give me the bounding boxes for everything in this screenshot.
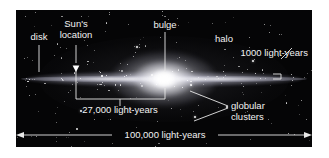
star bbox=[162, 15, 163, 16]
disk-knot bbox=[265, 78, 266, 79]
star bbox=[109, 14, 110, 15]
star bbox=[32, 79, 33, 80]
disk-knot bbox=[216, 76, 218, 78]
star bbox=[25, 16, 26, 17]
disk-knot bbox=[124, 76, 125, 77]
star bbox=[56, 122, 57, 123]
star bbox=[207, 76, 209, 78]
star bbox=[139, 47, 140, 48]
star bbox=[264, 24, 265, 25]
star bbox=[61, 57, 62, 58]
star bbox=[110, 119, 111, 120]
star bbox=[269, 32, 270, 33]
label-halo: halo bbox=[206, 34, 242, 45]
star bbox=[76, 128, 78, 130]
star bbox=[64, 101, 65, 102]
disk-knot bbox=[156, 84, 157, 85]
star bbox=[84, 141, 85, 142]
star bbox=[261, 92, 262, 93]
star bbox=[288, 133, 290, 135]
star bbox=[60, 47, 61, 48]
star bbox=[291, 85, 292, 86]
star bbox=[198, 105, 199, 106]
star bbox=[94, 50, 95, 51]
disk-knot bbox=[126, 75, 127, 76]
globular-cluster bbox=[226, 106, 228, 108]
star bbox=[177, 18, 178, 19]
disk-knot bbox=[104, 85, 105, 86]
star bbox=[212, 23, 213, 24]
star bbox=[224, 65, 225, 66]
star bbox=[119, 70, 120, 71]
star bbox=[25, 80, 26, 81]
star bbox=[242, 92, 243, 93]
star bbox=[185, 60, 186, 61]
star bbox=[74, 72, 75, 73]
star bbox=[118, 90, 119, 91]
disk-knot bbox=[141, 85, 143, 87]
globular-cluster bbox=[190, 84, 192, 86]
star bbox=[55, 113, 56, 114]
disk-knot bbox=[140, 83, 141, 84]
star bbox=[135, 52, 136, 53]
star bbox=[80, 97, 81, 98]
star bbox=[130, 98, 131, 99]
star bbox=[108, 119, 109, 120]
star bbox=[87, 45, 89, 47]
star bbox=[294, 134, 295, 135]
disk-knot bbox=[115, 85, 116, 86]
star bbox=[68, 137, 69, 138]
disk-knot bbox=[218, 78, 219, 79]
star bbox=[256, 83, 257, 84]
star bbox=[61, 73, 62, 74]
star bbox=[109, 12, 110, 13]
star bbox=[31, 136, 32, 137]
galactic-bulge-inner bbox=[151, 70, 177, 88]
disk-knot bbox=[100, 84, 102, 86]
star bbox=[72, 84, 73, 85]
disk-knot bbox=[106, 75, 107, 76]
disk-knot bbox=[99, 84, 100, 85]
star bbox=[254, 59, 255, 60]
disk-knot bbox=[225, 75, 227, 77]
star bbox=[140, 39, 141, 40]
star bbox=[105, 77, 106, 78]
star bbox=[97, 89, 98, 90]
disk-knot bbox=[29, 79, 30, 80]
star bbox=[225, 22, 226, 23]
star bbox=[88, 16, 89, 17]
globular-cluster bbox=[136, 46, 138, 48]
star bbox=[56, 141, 57, 142]
star bbox=[133, 56, 134, 57]
star bbox=[139, 44, 140, 45]
disk-knot bbox=[101, 75, 103, 77]
label-suns-location-line2: location bbox=[48, 30, 104, 41]
galactic-disk-bright-core bbox=[21, 75, 307, 82]
disk-knot bbox=[62, 79, 63, 80]
star bbox=[17, 137, 18, 138]
disk-knot bbox=[100, 72, 101, 73]
star bbox=[270, 25, 271, 26]
star bbox=[162, 11, 163, 12]
label-globular-clusters-line2: clusters bbox=[231, 112, 301, 123]
disk-knot bbox=[190, 81, 192, 83]
star bbox=[250, 139, 251, 140]
star bbox=[87, 64, 89, 66]
star bbox=[106, 22, 107, 23]
galactic-bulge-mid bbox=[135, 62, 193, 96]
disk-knot bbox=[191, 71, 193, 73]
star bbox=[56, 137, 57, 138]
star bbox=[247, 69, 248, 70]
star bbox=[35, 94, 36, 95]
star bbox=[32, 60, 33, 61]
star bbox=[206, 143, 207, 144]
galactic-disk bbox=[26, 71, 302, 86]
disk-knot bbox=[44, 83, 46, 85]
disk-knot bbox=[77, 82, 78, 83]
label-disk-thickness: 1000 light-years bbox=[203, 48, 308, 59]
star bbox=[193, 111, 194, 112]
star bbox=[70, 90, 72, 92]
star bbox=[262, 69, 263, 70]
star bbox=[164, 16, 165, 17]
star bbox=[66, 137, 67, 138]
